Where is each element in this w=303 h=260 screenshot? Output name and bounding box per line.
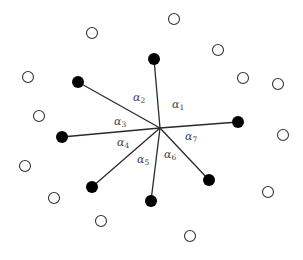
edge-1 [154, 59, 160, 128]
open-node [169, 14, 180, 25]
open-node [238, 73, 249, 84]
open-node [213, 45, 224, 56]
angle-label-alpha-4: α4 [117, 136, 129, 150]
angle-label-alpha-5: α5 [137, 153, 149, 167]
filled-node [232, 116, 244, 128]
angle-label-alpha-2: α2 [133, 91, 145, 105]
open-node [96, 216, 107, 227]
edge-5 [151, 128, 160, 201]
angle-label-alpha-7: α7 [185, 130, 197, 144]
edge-7 [160, 122, 238, 128]
open-node [278, 130, 289, 141]
angle-label-alpha-6: α6 [164, 148, 176, 162]
open-node [34, 111, 45, 122]
edge-3 [62, 128, 160, 137]
open-nodes-group [20, 14, 289, 242]
angle-label-alpha-1: α1 [172, 98, 184, 112]
filled-node [56, 131, 68, 143]
open-node [49, 193, 60, 204]
open-node [23, 72, 34, 83]
filled-nodes-group [56, 53, 244, 207]
filled-node [72, 76, 84, 88]
open-node [20, 161, 31, 172]
filled-node [145, 195, 157, 207]
edge-4 [92, 128, 160, 187]
open-node [185, 231, 196, 242]
open-node [263, 187, 274, 198]
open-node [273, 79, 284, 90]
star-graph-diagram: α1α2α3α4α5α6α7 [0, 0, 303, 260]
filled-node [86, 181, 98, 193]
angle-label-alpha-3: α3 [114, 115, 126, 129]
open-node [87, 28, 98, 39]
filled-node [203, 174, 215, 186]
filled-node [148, 53, 160, 65]
